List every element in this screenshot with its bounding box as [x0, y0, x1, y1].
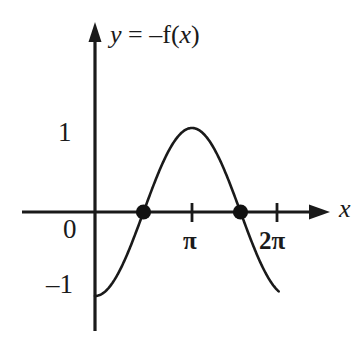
equation-annotation: y = –f(x) [110, 22, 200, 48]
equation-minus-sign: – [149, 20, 162, 49]
y-axis-label-zero: 0 [63, 216, 77, 243]
root-marker-right [233, 204, 248, 219]
x-axis-variable-label: x [339, 196, 351, 222]
equation-equals-sign: = [122, 20, 150, 49]
equation-open-paren: ( [171, 20, 180, 49]
root-marker-left [136, 204, 151, 219]
x-axis-tick-label-two-pi: 2π [259, 228, 285, 253]
y-axis-arrowhead [89, 22, 102, 42]
equation-lhs-variable: y [110, 20, 122, 49]
equation-function-name: f [162, 20, 171, 49]
y-axis-label-one: 1 [58, 119, 72, 146]
graph-figure: 1 0 –1 π 2π x y = –f(x) [0, 0, 362, 341]
equation-close-paren: ) [191, 20, 200, 49]
y-axis-label-negative-one: –1 [46, 271, 73, 298]
x-axis-arrowhead [309, 205, 330, 220]
x-axis-tick-label-pi: π [183, 228, 197, 253]
equation-argument: x [180, 20, 192, 49]
